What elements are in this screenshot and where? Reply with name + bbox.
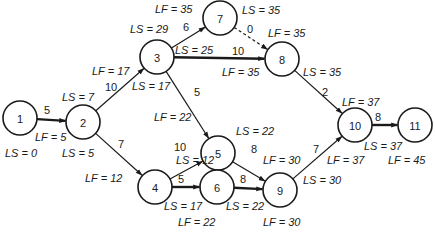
network-diagram: 51076105021058878 1234567891011 LF = 35L… — [0, 0, 435, 235]
timing-label: LS = 0 — [5, 147, 38, 159]
edge-duration-3-7: 6 — [183, 21, 189, 33]
timing-label: LS = 29 — [130, 23, 168, 35]
edge-duration-2-4: 7 — [118, 138, 124, 150]
edge-duration-10-11: 8 — [375, 111, 381, 123]
timing-label: LS = 12 — [176, 154, 214, 166]
timing-label: LF = 17 — [92, 65, 130, 77]
edge-duration-7-8: 0 — [247, 23, 253, 35]
timing-label: LS = 17 — [164, 200, 203, 212]
edge-duration-3-5: 5 — [194, 86, 200, 98]
timing-label: LF = 12 — [85, 172, 122, 184]
node-label: 5 — [215, 148, 221, 160]
edge-duration-9-10: 7 — [313, 143, 319, 155]
edge-duration-5-9: 8 — [251, 143, 257, 155]
timing-label: LF = 45 — [388, 154, 426, 166]
timing-label: LF = 5 — [35, 131, 67, 143]
edge-5-9 — [233, 162, 265, 181]
timing-label: LF = 35 — [155, 3, 193, 15]
timing-label: LF = 37 — [342, 96, 380, 108]
node-1: 1 — [3, 101, 37, 135]
timing-label: LF = 22 — [154, 111, 191, 123]
node-11: 11 — [398, 108, 432, 142]
node-label: 10 — [349, 120, 361, 132]
node-label: 9 — [277, 185, 283, 197]
node-label: 3 — [154, 52, 160, 64]
edge-1-2 — [37, 119, 66, 121]
node-label: 2 — [80, 117, 86, 129]
node-label: 1 — [17, 113, 23, 125]
timing-label: LF = 22 — [178, 216, 215, 228]
timing-label: LS = 37 — [364, 140, 403, 152]
timing-label: LF = 35 — [268, 27, 306, 39]
timing-label: LS = 35 — [242, 4, 281, 16]
node-label: 6 — [214, 182, 220, 194]
edge-duration-2-3: 10 — [105, 81, 117, 93]
node-9: 9 — [263, 173, 297, 207]
edge-duration-1-2: 5 — [44, 104, 50, 116]
edge-duration-6-9: 8 — [240, 173, 246, 185]
timing-label: LS = 35 — [303, 66, 342, 78]
node-label: 8 — [279, 54, 285, 66]
timing-label: LS = 25 — [175, 44, 214, 56]
timing-label: LF = 30 — [263, 154, 301, 166]
timing-label: LS = 5 — [62, 147, 95, 159]
node-label: 7 — [217, 13, 223, 25]
timing-label: LF = 30 — [263, 216, 301, 228]
timing-label: LS = 22 — [236, 125, 274, 137]
node-7: 7 — [203, 1, 237, 35]
timing-label: LS = 7 — [62, 91, 95, 103]
timing-label: LS = 30 — [303, 174, 342, 186]
node-10: 10 — [338, 108, 372, 142]
timing-label: LS = 17 — [132, 80, 171, 92]
node-2: 2 — [66, 105, 100, 139]
edge-3-8 — [174, 57, 265, 58]
node-label: 11 — [409, 120, 420, 132]
node-6: 6 — [200, 170, 234, 204]
timing-label: LF = 37 — [327, 154, 365, 166]
node-4: 4 — [138, 170, 172, 204]
edge-duration-8-10: 2 — [322, 86, 328, 98]
edge-duration-4-5: 10 — [174, 141, 186, 153]
edge-3-5 — [166, 71, 208, 138]
node-8: 8 — [265, 42, 299, 76]
edge-6-9 — [234, 188, 263, 189]
edge-duration-4-6: 5 — [178, 173, 184, 185]
node-label: 4 — [152, 182, 158, 194]
timing-label: LS = 22 — [226, 200, 264, 212]
edge-duration-3-8: 10 — [232, 45, 244, 57]
node-3: 3 — [140, 40, 174, 74]
timing-label: LF = 35 — [222, 66, 260, 78]
